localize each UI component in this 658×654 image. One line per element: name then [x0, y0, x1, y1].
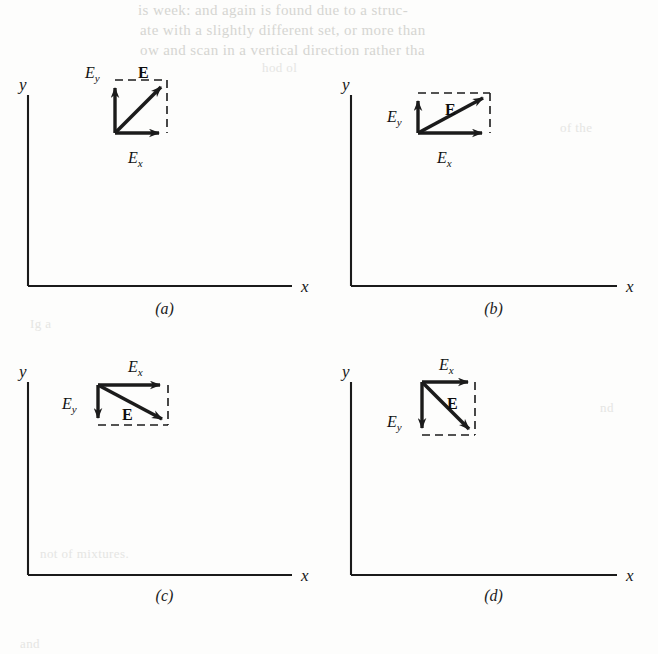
panel-c-label-ex: Ex [127, 358, 143, 378]
panel-c-y-axis-label: y [17, 362, 27, 381]
panel-a-axes [28, 95, 292, 286]
panel-d-diagram: y x Ex Ey E [329, 327, 658, 627]
panel-c-caption: (c) [0, 587, 329, 605]
panel-a: y x Ey Ex E (a) [0, 0, 329, 327]
panel-c: y x Ex Ey E (c) [0, 327, 329, 654]
panel-d-caption: (d) [329, 587, 658, 605]
panel-d-label-ex: Ex [438, 356, 454, 376]
panel-c-label-e: E [122, 406, 133, 423]
panel-d: y x Ex Ey E (d) [329, 327, 658, 654]
panel-c-diagram: y x Ex Ey E [0, 327, 329, 627]
panel-a-diagram: y x Ey Ex E [0, 0, 329, 300]
panel-b-caption: (b) [329, 300, 658, 318]
panel-a-label-e: E [138, 64, 149, 81]
panel-d-label-e: E [447, 395, 458, 412]
panel-a-y-axis-label: y [17, 75, 27, 94]
panel-d-axes [351, 382, 617, 575]
panel-a-x-axis-label: x [300, 277, 309, 296]
panel-c-x-axis-label: x [300, 566, 309, 585]
panel-b-label-e: E [445, 101, 456, 118]
panel-b-x-axis-label: x [625, 277, 634, 296]
panel-a-vector-e [115, 87, 161, 133]
panel-d-label-ey: Ey [386, 413, 402, 433]
panel-d-vector-e [422, 382, 469, 429]
panel-a-caption: (a) [0, 300, 329, 318]
figure-page: is week: and again is found due to a str… [0, 0, 658, 654]
panel-d-x-axis-label: x [625, 566, 634, 585]
panel-b-label-ex: Ex [436, 149, 452, 169]
panel-b-y-axis-label: y [340, 75, 350, 94]
panel-b-diagram: y x Ey Ex E [329, 0, 658, 300]
panel-b-label-ey: Ey [386, 108, 402, 128]
panel-b: y x Ey Ex E (b) [329, 0, 658, 327]
panel-a-label-ey: Ey [84, 64, 100, 84]
panel-d-y-axis-label: y [340, 362, 350, 381]
panel-c-label-ey: Ey [61, 395, 77, 415]
panel-a-label-ex: Ex [127, 149, 143, 169]
